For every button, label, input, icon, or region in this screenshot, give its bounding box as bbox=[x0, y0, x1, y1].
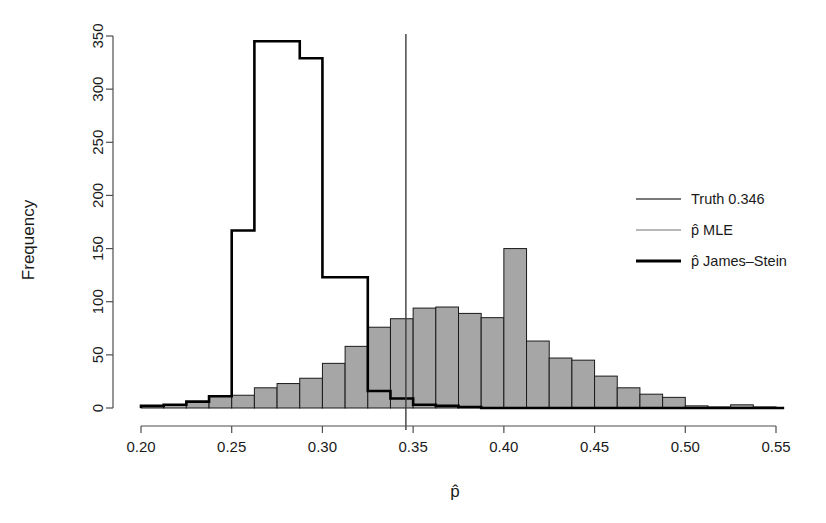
histogram-bar bbox=[368, 327, 391, 408]
histogram-bar bbox=[504, 249, 527, 408]
histogram-bar bbox=[277, 384, 300, 408]
histogram-bar bbox=[595, 376, 618, 408]
histogram-bar bbox=[390, 319, 413, 408]
x-axis-tick-label: 0.45 bbox=[580, 438, 609, 455]
x-axis-tick-label: 0.35 bbox=[399, 438, 428, 455]
x-axis-title: p̂ bbox=[450, 482, 459, 501]
x-axis-tick-label: 0.50 bbox=[671, 438, 700, 455]
histogram-bar bbox=[527, 341, 550, 408]
y-axis-title: Frequency bbox=[19, 199, 38, 280]
histogram-bar bbox=[617, 388, 640, 408]
x-axis-tick-label: 0.55 bbox=[761, 438, 790, 455]
histogram-bar bbox=[209, 396, 232, 408]
histogram-bar bbox=[572, 360, 595, 408]
x-axis-tick-label: 0.30 bbox=[308, 438, 337, 455]
x-axis-tick-label: 0.40 bbox=[489, 438, 518, 455]
histogram-bar bbox=[549, 358, 572, 408]
plot-canvas: 0.200.250.300.350.400.450.500.55 0501001… bbox=[0, 0, 826, 523]
y-axis-tick-label: 100 bbox=[89, 289, 106, 314]
legend-label: p̂ James–Stein bbox=[691, 253, 787, 269]
legend: Truth 0.346p̂ MLEp̂ James–Stein bbox=[636, 191, 787, 269]
mle-histogram-bars bbox=[141, 249, 776, 408]
histogram-bar bbox=[481, 318, 504, 408]
y-axis: 050100150200250300350 bbox=[89, 23, 113, 412]
x-axis: 0.200.250.300.350.400.450.500.55 bbox=[126, 426, 790, 455]
y-axis-tick-label: 350 bbox=[89, 23, 106, 48]
histogram-bar bbox=[436, 307, 459, 408]
histogram-bar bbox=[459, 313, 482, 408]
x-axis-tick-label: 0.25 bbox=[217, 438, 246, 455]
x-axis-tick-label: 0.20 bbox=[126, 438, 155, 455]
histogram-figure: 0.200.250.300.350.400.450.500.55 0501001… bbox=[0, 0, 826, 523]
histogram-bar bbox=[322, 363, 345, 408]
histogram-bar bbox=[300, 378, 323, 408]
y-axis-tick-label: 0 bbox=[89, 404, 106, 412]
histogram-bar bbox=[663, 397, 686, 408]
y-axis-tick-label: 150 bbox=[89, 236, 106, 261]
y-axis-tick-label: 250 bbox=[89, 130, 106, 155]
histogram-bar bbox=[232, 395, 255, 408]
y-axis-tick-label: 50 bbox=[89, 347, 106, 364]
histogram-bar bbox=[413, 308, 436, 408]
histogram-bar bbox=[640, 394, 663, 408]
y-axis-tick-label: 200 bbox=[89, 183, 106, 208]
legend-label: Truth 0.346 bbox=[691, 191, 765, 207]
histogram-bar bbox=[345, 346, 368, 408]
legend-label: p̂ MLE bbox=[691, 222, 733, 238]
histogram-bar bbox=[254, 388, 277, 408]
y-axis-tick-label: 300 bbox=[89, 77, 106, 102]
